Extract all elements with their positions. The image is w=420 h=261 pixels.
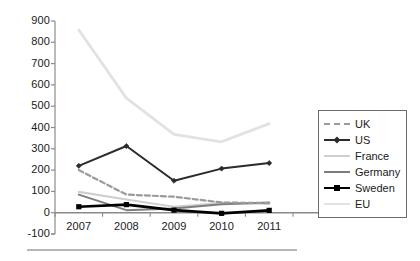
y-tick-label: 500 xyxy=(10,99,50,111)
legend-swatch-eu xyxy=(324,197,350,211)
series-marker-sweden xyxy=(124,202,129,207)
y-tick-label: 400 xyxy=(10,121,50,133)
line-chart: 9008007006005004003002001000-100 2007200… xyxy=(0,0,420,261)
y-tick-label: 600 xyxy=(10,78,50,90)
x-tick-label: 2011 xyxy=(244,220,294,232)
series-line-us xyxy=(79,146,269,181)
series-marker-sweden xyxy=(76,204,81,209)
legend-swatch-france xyxy=(324,149,350,163)
legend-item-us[interactable]: US xyxy=(324,132,400,148)
series-line-uk xyxy=(79,170,269,203)
y-tick-label: -100 xyxy=(10,227,50,239)
x-tick-label: 2009 xyxy=(149,220,199,232)
x-tick-label: 2008 xyxy=(101,220,151,232)
y-tick-label: 0 xyxy=(10,206,50,218)
legend-label-germany: Germany xyxy=(355,164,400,180)
legend-label-us: US xyxy=(355,132,370,148)
legend-label-france: France xyxy=(355,148,389,164)
legend-item-sweden[interactable]: Sweden xyxy=(324,180,400,196)
y-tick-label: 300 xyxy=(10,142,50,154)
legend-label-eu: EU xyxy=(355,196,370,212)
legend-marker-sweden xyxy=(334,185,340,191)
y-tick-label: 800 xyxy=(10,35,50,47)
legend-item-germany[interactable]: Germany xyxy=(324,164,400,180)
legend-item-uk[interactable]: UK xyxy=(324,116,400,132)
y-tick-label: 100 xyxy=(10,184,50,196)
legend-item-france[interactable]: France xyxy=(324,148,400,164)
y-tick-label: 200 xyxy=(10,163,50,175)
series-marker-sweden xyxy=(219,211,224,216)
legend-swatch-uk xyxy=(324,117,350,131)
x-tick-label: 2007 xyxy=(54,220,104,232)
legend-label-uk: UK xyxy=(355,116,370,132)
chart-legend: UKUSFranceGermanySwedenEU xyxy=(318,110,407,218)
legend-label-sweden: Sweden xyxy=(355,180,395,196)
x-tick-label: 2010 xyxy=(197,220,247,232)
legend-item-eu[interactable]: EU xyxy=(324,196,400,212)
legend-swatch-us xyxy=(324,133,350,147)
series-marker-us xyxy=(219,166,224,171)
legend-swatch-sweden xyxy=(324,181,350,195)
legend-marker-us xyxy=(333,136,340,143)
legend-swatch-germany xyxy=(324,165,350,179)
series-marker-sweden xyxy=(171,208,176,213)
y-tick-label: 900 xyxy=(10,14,50,26)
series-line-eu xyxy=(79,30,269,142)
series-marker-us xyxy=(267,160,272,165)
y-tick-label: 700 xyxy=(10,57,50,69)
series-marker-sweden xyxy=(267,208,272,213)
